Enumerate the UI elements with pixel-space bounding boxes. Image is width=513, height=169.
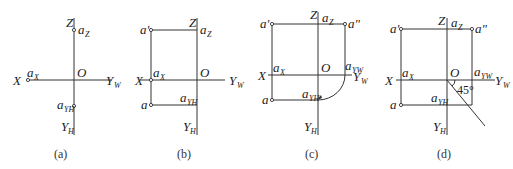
panel-a: Z a Z X a X O Y W a YH Y H (a) [12, 15, 122, 161]
point-a-double-prime [343, 22, 346, 25]
label-ayw: a [474, 64, 481, 79]
label-az-sub: Z [85, 30, 90, 39]
point-a-prime [399, 27, 402, 30]
label-a-prime: a' [140, 22, 150, 37]
label-ayw: a [345, 58, 352, 73]
projection-diagrams: Z a Z X a X O Y W a YH Y H (a) a' Z a Z … [0, 0, 513, 169]
label-o: O [450, 65, 460, 80]
label-a-double-prime: a" [475, 21, 488, 36]
point-a-double-prime [470, 27, 473, 30]
caption-b: (b) [177, 147, 191, 161]
label-z: Z [438, 13, 446, 28]
label-yw-sub: W [503, 81, 511, 90]
label-o: O [77, 65, 87, 80]
label-ayh-sub: YH [187, 98, 198, 107]
transfer-arc [318, 75, 345, 100]
label-ax: a [27, 65, 34, 80]
angle-arc [452, 80, 455, 86]
point-a [399, 103, 402, 106]
label-ax: a [153, 65, 160, 80]
label-ayh: a [431, 90, 438, 105]
label-z: Z [66, 15, 74, 30]
label-o: O [200, 65, 210, 80]
label-x: X [384, 73, 394, 88]
label-x: X [257, 68, 267, 83]
label-yw-sub: W [361, 77, 369, 86]
panel-b: a' Z a Z X a X O Y W a a YH Y H (b) [134, 15, 245, 161]
label-az-sub: Z [458, 23, 463, 32]
label-ax: a [273, 60, 280, 75]
label-yh-sub: H [439, 127, 447, 136]
label-o: O [321, 60, 331, 75]
label-ax: a [402, 65, 409, 80]
point-a [149, 103, 152, 106]
label-az: a [451, 15, 458, 30]
label-ax-sub: X [279, 68, 286, 77]
label-z: Z [189, 15, 197, 30]
caption-c: (c) [305, 147, 318, 161]
label-yw-sub: W [237, 81, 245, 90]
label-az-sub: Z [329, 18, 334, 27]
label-ayh-sub: YH [309, 94, 320, 103]
label-a-prime: a' [260, 16, 270, 31]
label-ax-sub: X [33, 73, 40, 82]
point-a-prime [270, 22, 273, 25]
label-angle-45: 45° [457, 83, 474, 97]
label-ayh-sub: YH [64, 105, 75, 114]
caption-a: (a) [54, 147, 67, 161]
label-az: a [200, 22, 207, 37]
label-ayh: a [302, 86, 309, 101]
label-yh-sub: H [310, 127, 318, 136]
label-a: a [141, 97, 148, 112]
label-ax-sub: X [408, 73, 415, 82]
label-a-double-prime: a" [348, 16, 361, 31]
label-a: a [262, 92, 269, 107]
label-ayh: a [180, 90, 187, 105]
label-a-prime: a' [390, 21, 400, 36]
label-x: X [12, 73, 22, 88]
point-a-prime [149, 28, 152, 31]
label-az-sub: Z [207, 30, 212, 39]
caption-d: (d) [437, 147, 451, 161]
label-z: Z [310, 7, 318, 22]
label-yh-sub: H [189, 127, 197, 136]
point-a [270, 98, 273, 101]
label-ayw-sub: YW [481, 72, 493, 81]
label-a: a [390, 97, 397, 112]
label-ayh-sub: YH [438, 98, 449, 107]
label-x: X [134, 73, 144, 88]
label-yw-sub: W [114, 81, 122, 90]
label-ayh: a [57, 97, 64, 112]
panel-c: a' Z a Z a" X a X O a YW Y W a a YH Y H … [257, 7, 369, 161]
label-ax-sub: X [159, 73, 166, 82]
panel-d: a' Z a Z a" X a X O a YW Y W 45° a a YH … [384, 13, 511, 161]
label-az: a [78, 22, 85, 37]
label-az: a [322, 10, 329, 25]
